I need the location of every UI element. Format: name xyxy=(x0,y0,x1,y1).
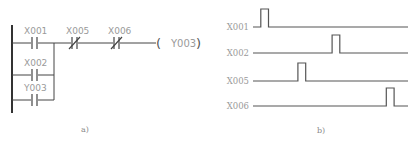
caption-a: a) xyxy=(81,125,89,134)
waveform-x006 xyxy=(253,88,408,106)
contact-label-x002: X002 xyxy=(24,58,47,68)
output-coil-y003: ( Y003 ) xyxy=(156,36,201,51)
contact-label-y003: Y003 xyxy=(23,83,47,93)
contact-label-x001: X001 xyxy=(24,26,47,36)
ladder-diagram: X001 X005 X006 ( Y003 ) X002 xyxy=(12,25,201,134)
signal-label-x005: X005 xyxy=(227,76,249,86)
contact-x001 xyxy=(32,37,37,49)
timing-diagram: b) X001X002X005X006 xyxy=(227,9,408,135)
waveform-x001 xyxy=(253,9,408,27)
signal-label-x002: X002 xyxy=(227,48,249,58)
coil-open-paren: ( xyxy=(156,36,161,51)
waveform-x002 xyxy=(253,35,408,53)
contact-label-x006: X006 xyxy=(108,26,132,36)
figure: X001 X005 X006 ( Y003 ) X002 xyxy=(0,0,416,147)
signal-label-x006: X006 xyxy=(227,101,249,111)
coil-label: Y003 xyxy=(170,38,196,49)
caption-b: b) xyxy=(317,126,325,135)
contact-x002 xyxy=(32,69,37,81)
contact-y003 xyxy=(32,94,37,106)
waveform-x005 xyxy=(253,63,408,81)
signal-label-x001: X001 xyxy=(227,22,249,32)
coil-close-paren: ) xyxy=(196,36,201,51)
contact-label-x005: X005 xyxy=(66,26,89,36)
